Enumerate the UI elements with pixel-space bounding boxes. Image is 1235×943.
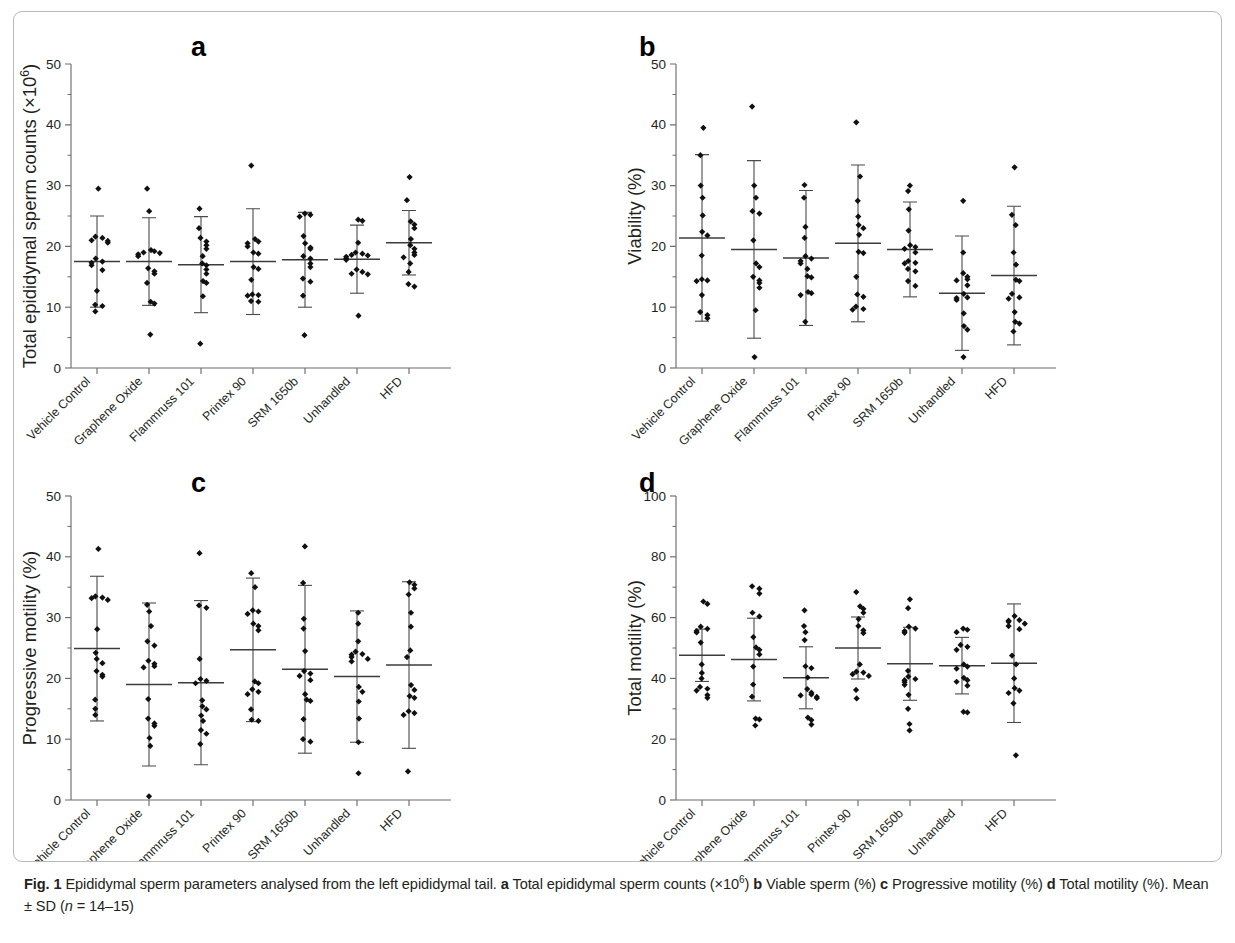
svg-text:10: 10 bbox=[651, 300, 666, 315]
svg-text:40: 40 bbox=[46, 549, 61, 564]
svg-text:20: 20 bbox=[46, 239, 61, 254]
panel-c-plot: 01020304050Progressive motility (%)Vehic… bbox=[14, 448, 619, 862]
svg-text:Total epididymal sperm counts: Total epididymal sperm counts (×106) bbox=[18, 64, 40, 368]
caption-a-close: ) bbox=[745, 876, 754, 892]
figure-caption: Fig. 1 Epididymal sperm parameters analy… bbox=[24, 872, 1214, 917]
caption-intro: Epididymal sperm parameters analysed fro… bbox=[62, 876, 501, 892]
svg-text:Progressive motility (%): Progressive motility (%) bbox=[19, 551, 40, 745]
svg-text:0: 0 bbox=[53, 361, 61, 376]
svg-text:Unhandled: Unhandled bbox=[906, 806, 958, 858]
svg-text:HFD: HFD bbox=[377, 806, 405, 834]
figure-card: a 01020304050Total epididymal sperm coun… bbox=[13, 11, 1222, 862]
svg-text:10: 10 bbox=[46, 300, 61, 315]
caption-n-symbol: n bbox=[65, 898, 73, 914]
svg-text:Printex 90: Printex 90 bbox=[200, 374, 249, 423]
svg-text:SRM 1650b: SRM 1650b bbox=[245, 806, 301, 862]
svg-text:HFD: HFD bbox=[982, 806, 1010, 834]
panel-d-plot: 020406080100Total motility (%)Vehicle Co… bbox=[619, 448, 1222, 862]
svg-text:SRM 1650b: SRM 1650b bbox=[850, 374, 906, 430]
svg-text:30: 30 bbox=[46, 610, 61, 625]
svg-text:20: 20 bbox=[651, 239, 666, 254]
panel-b-plot: 01020304050Viability (%)Vehicle ControlG… bbox=[619, 12, 1222, 452]
panel-c: c 01020304050Progressive motility (%)Veh… bbox=[14, 448, 619, 862]
panel-a-plot: 01020304050Total epididymal sperm counts… bbox=[14, 12, 619, 452]
caption-a-letter: a bbox=[501, 876, 509, 892]
svg-text:Printex 90: Printex 90 bbox=[805, 806, 854, 855]
svg-text:20: 20 bbox=[651, 732, 666, 747]
svg-text:Unhandled: Unhandled bbox=[301, 374, 353, 426]
svg-text:10: 10 bbox=[46, 732, 61, 747]
caption-c-text: Progressive motility (%) bbox=[888, 876, 1047, 892]
svg-text:Vehicle Control: Vehicle Control bbox=[629, 806, 698, 862]
svg-text:60: 60 bbox=[651, 610, 666, 625]
svg-text:Unhandled: Unhandled bbox=[301, 806, 353, 858]
svg-text:SRM 1650b: SRM 1650b bbox=[245, 374, 301, 430]
panel-d-letter: d bbox=[639, 470, 655, 497]
svg-text:HFD: HFD bbox=[982, 374, 1010, 402]
panel-a-letter: a bbox=[191, 34, 206, 61]
caption-b-letter: b bbox=[753, 876, 762, 892]
svg-text:50: 50 bbox=[46, 57, 61, 72]
caption-d-letter: d bbox=[1047, 876, 1056, 892]
svg-text:SRM 1650b: SRM 1650b bbox=[850, 806, 906, 862]
svg-text:50: 50 bbox=[46, 489, 61, 504]
svg-text:Unhandled: Unhandled bbox=[906, 374, 958, 426]
caption-b-text: Viable sperm (%) bbox=[762, 876, 880, 892]
svg-text:0: 0 bbox=[658, 361, 666, 376]
svg-text:Total motility (%): Total motility (%) bbox=[624, 580, 645, 716]
panel-a: a 01020304050Total epididymal sperm coun… bbox=[14, 12, 619, 452]
svg-text:80: 80 bbox=[651, 549, 666, 564]
svg-text:Printex 90: Printex 90 bbox=[805, 374, 854, 423]
panel-c-letter: c bbox=[191, 470, 206, 497]
svg-text:0: 0 bbox=[53, 793, 61, 808]
svg-text:30: 30 bbox=[651, 178, 666, 193]
svg-text:HFD: HFD bbox=[377, 374, 405, 402]
caption-n-value: = 14–15) bbox=[73, 898, 134, 914]
caption-a-text: Total epididymal sperm counts (×10 bbox=[509, 876, 739, 892]
svg-text:Viability (%): Viability (%) bbox=[624, 167, 645, 264]
svg-text:0: 0 bbox=[658, 793, 666, 808]
panel-d: d 020406080100Total motility (%)Vehicle … bbox=[619, 448, 1222, 862]
svg-text:40: 40 bbox=[651, 671, 666, 686]
caption-figure-label: Fig. 1 bbox=[24, 876, 62, 892]
svg-text:Vehicle Control: Vehicle Control bbox=[24, 806, 93, 862]
caption-c-letter: c bbox=[880, 876, 888, 892]
svg-text:20: 20 bbox=[46, 671, 61, 686]
svg-text:40: 40 bbox=[651, 117, 666, 132]
svg-text:30: 30 bbox=[46, 178, 61, 193]
svg-text:40: 40 bbox=[46, 117, 61, 132]
panel-b: b 01020304050Viability (%)Vehicle Contro… bbox=[619, 12, 1222, 452]
svg-text:Printex 90: Printex 90 bbox=[200, 806, 249, 855]
panel-b-letter: b bbox=[639, 34, 655, 61]
